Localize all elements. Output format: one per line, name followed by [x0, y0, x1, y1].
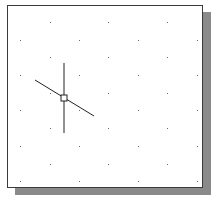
grid-dot [197, 40, 198, 41]
grid-dot [79, 75, 80, 76]
grid-dot [50, 164, 51, 165]
grid-dot [167, 22, 168, 23]
grid-dot [197, 110, 198, 111]
grid-dot [79, 146, 80, 147]
grid-dot [50, 93, 51, 94]
pickbox-icon [61, 95, 67, 101]
grid-dot [20, 75, 21, 76]
grid-dot [108, 93, 109, 94]
grid-dot [108, 164, 109, 165]
grid-dot [20, 181, 21, 182]
crosshair-cursor-icon [35, 63, 94, 133]
grid-dot [79, 110, 80, 111]
grid-dot [108, 128, 109, 129]
grid-dot [50, 128, 51, 129]
grid-dot [167, 164, 168, 165]
grid-dot [79, 181, 80, 182]
grid-dot [167, 128, 168, 129]
grid-dot [138, 181, 139, 182]
grid-dot [79, 40, 80, 41]
grid-dot [138, 146, 139, 147]
isometric-grid [0, 0, 213, 199]
grid-dot [197, 181, 198, 182]
grid-dot [108, 22, 109, 23]
grid-dot [50, 57, 51, 58]
grid-dot [138, 40, 139, 41]
grid-dot [197, 146, 198, 147]
grid-dot [20, 146, 21, 147]
grid-dot [108, 57, 109, 58]
grid-dot [50, 22, 51, 23]
grid-dot [167, 57, 168, 58]
grid-dot [197, 75, 198, 76]
grid-dot [20, 110, 21, 111]
grid-dot [20, 40, 21, 41]
grid-dot [167, 93, 168, 94]
grid-dot [138, 110, 139, 111]
grid-dot [138, 75, 139, 76]
